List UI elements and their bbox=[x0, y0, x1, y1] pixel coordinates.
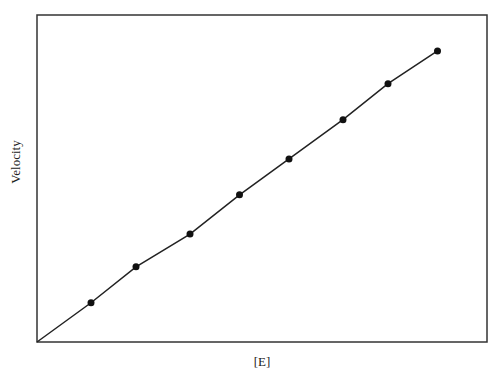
data-series bbox=[37, 47, 441, 342]
data-point bbox=[187, 231, 194, 238]
data-point bbox=[236, 191, 243, 198]
x-axis-label: [E] bbox=[254, 354, 271, 370]
y-axis-label: Velocity bbox=[8, 140, 24, 183]
plot-svg bbox=[0, 0, 490, 372]
data-point bbox=[88, 299, 95, 306]
chart-area: Velocity [E] bbox=[0, 0, 490, 372]
data-point bbox=[385, 80, 392, 87]
data-point bbox=[133, 263, 140, 270]
data-point bbox=[434, 47, 441, 54]
data-point bbox=[340, 116, 347, 123]
data-point bbox=[286, 155, 293, 162]
